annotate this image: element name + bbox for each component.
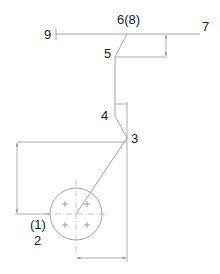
dim-arrow-icon bbox=[165, 35, 167, 39]
link-2-3 bbox=[76, 138, 127, 214]
link-4-3 bbox=[115, 116, 127, 138]
label-5: 5 bbox=[104, 46, 111, 61]
dim-arrow-icon bbox=[165, 53, 167, 57]
label-2: 2 bbox=[34, 233, 41, 248]
link-6-5 bbox=[115, 34, 127, 57]
linkage-diagram: 9 6(8) 7 5 4 3 (1) 2 bbox=[0, 0, 220, 274]
dim-arrow-icon bbox=[16, 143, 18, 147]
dim-arrow-icon bbox=[77, 257, 81, 259]
dim-arrow-icon bbox=[123, 257, 127, 259]
label-7: 7 bbox=[202, 19, 209, 34]
label-1: (1) bbox=[30, 217, 46, 232]
label-9: 9 bbox=[44, 27, 51, 42]
label-4: 4 bbox=[101, 108, 108, 123]
dim-arrow-icon bbox=[16, 210, 18, 214]
label-3: 3 bbox=[131, 131, 138, 146]
label-6-8: 6(8) bbox=[117, 12, 140, 27]
